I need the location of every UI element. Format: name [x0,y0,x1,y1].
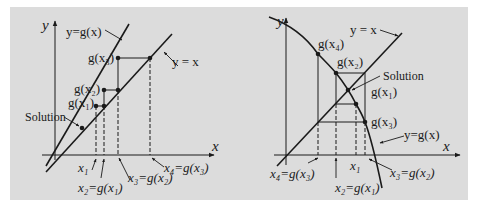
fixed-point-iteration-figure: y x y=g(x) y = x g(x₃) g(x₂) g(x₁) Solut… [0,0,477,211]
left-gx1-label: g(x₁) [68,95,94,110]
left-gx2-label: g(x₂) [74,81,100,96]
right-x4-label: x₄=g(x₃) [269,166,315,181]
right-gx3-label: g(x₃) [371,114,397,129]
right-dashed-projections [318,104,365,155]
right-curve-label: y=g(x) [404,127,440,142]
right-diagram-convergent-spiral [269,17,460,188]
right-labels: y x y = x g(x₄) g(x₂) Solution g(x₁) g(x… [269,13,450,195]
right-identity-label: y = x [350,22,377,37]
left-x1-label: x₁ [77,160,88,175]
left-x2-label: x₂=g(x₁) [77,180,123,195]
left-gx3-label: g(x₃) [88,50,114,65]
left-x4-label: x₄=g(x₃) [163,160,209,175]
right-solution-label: Solution [383,69,424,83]
right-gx4-label: g(x₄) [318,36,344,51]
left-identity-label: y = x [172,54,199,69]
left-solution-label: Solution [25,110,66,124]
right-x2-label: x₂=g(x₁) [334,180,380,195]
right-x1-label: x₁ [349,158,360,173]
left-x-axis-label: x [211,138,219,154]
left-y-axis-label: y [40,17,49,33]
right-gx1-label: g(x₁) [371,84,397,99]
right-y-axis-label: y [275,13,284,29]
left-curve-label: y=g(x) [66,24,102,39]
right-x-axis-label: x [442,138,450,154]
right-gx2-label: g(x₂) [337,54,363,69]
left-labels: y x y=g(x) y = x g(x₃) g(x₂) g(x₁) Solut… [25,17,219,195]
right-line-identity [277,33,402,166]
right-x3-label: x₃=g(x₂) [389,165,435,180]
